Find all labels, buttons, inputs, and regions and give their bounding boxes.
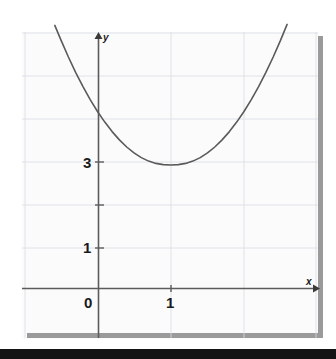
y-axis: [95, 32, 103, 338]
y-tick-label-1: 1: [83, 240, 91, 255]
tick-marks: [95, 162, 171, 292]
x-axis-arrow-icon: [313, 285, 320, 293]
figure-container: 3 1 0 1 y x: [0, 0, 336, 359]
vertical-gridlines: [25, 32, 316, 338]
horizontal-gridlines: [22, 33, 318, 248]
origin-label-0: 0: [84, 295, 92, 310]
bottom-black-bar: [0, 349, 336, 359]
y-tick-label-3: 3: [83, 155, 91, 170]
x-axis-name: x: [306, 277, 312, 287]
x-tick-label-1: 1: [166, 295, 174, 310]
y-axis-name: y: [103, 33, 109, 43]
